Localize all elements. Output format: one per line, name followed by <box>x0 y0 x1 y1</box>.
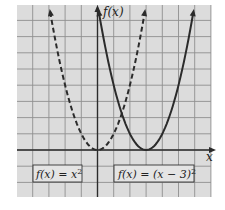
x-axis-label: x <box>206 150 213 164</box>
legend-label-x-minus-3-squared: f(x) = (x − 3) <box>117 168 191 181</box>
chart: f(x) x f(x) = x2 f(x) = (x − 3)2 <box>0 0 225 210</box>
y-axis-label: f(x) <box>102 5 124 19</box>
legend-label-x-squared: f(x) = x <box>35 168 78 181</box>
legend-sup-x-squared: 2 <box>77 167 82 176</box>
legend-box-x-minus-3-squared: f(x) = (x − 3)2 <box>114 165 196 182</box>
svg-text:f(x) = (x − 3)2: f(x) = (x − 3)2 <box>117 167 196 181</box>
legend-sup-x-minus-3-squared: 2 <box>191 167 196 176</box>
legend-box-x-squared: f(x) = x2 <box>33 165 82 182</box>
svg-text:f(x) = x2: f(x) = x2 <box>35 167 82 181</box>
